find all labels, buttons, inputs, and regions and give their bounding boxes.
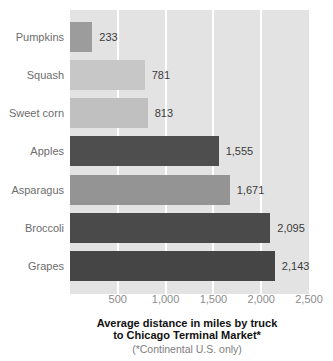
- category-label: Grapes: [0, 260, 70, 272]
- value-label: 1,671: [237, 184, 265, 196]
- category-label: Asparagus: [0, 184, 70, 196]
- bar-row: Squash 781: [0, 60, 309, 90]
- value-label: 2,143: [282, 260, 310, 272]
- category-label: Apples: [0, 145, 70, 157]
- bar: [70, 22, 92, 52]
- bar-chart: Pumpkins 233 Squash 781 Sweet corn 813 A…: [0, 0, 333, 361]
- bar-row: Pumpkins 233: [0, 22, 309, 52]
- x-tick-2000: 2,000: [247, 293, 275, 305]
- bar-row: Sweet corn 813: [0, 98, 309, 128]
- bar: [70, 213, 270, 243]
- chart-title-line2: to Chicago Terminal Market*: [55, 329, 319, 341]
- category-label: Squash: [0, 69, 70, 81]
- category-label: Sweet corn: [0, 107, 70, 119]
- bar-track: 2,143: [70, 251, 309, 281]
- x-tick-2500: 2,500: [295, 293, 323, 305]
- bar: [70, 98, 148, 128]
- x-axis: 500 1,000 1,500 2,000 2,500: [70, 293, 309, 307]
- bar-track: 2,095: [70, 213, 309, 243]
- bar-row: Broccoli 2,095: [0, 213, 309, 243]
- value-label: 233: [99, 31, 117, 43]
- bar-row: Grapes 2,143: [0, 251, 309, 281]
- chart-subtitle: (*Continental U.S. only): [55, 343, 319, 355]
- bar: [70, 60, 145, 90]
- bar-track: 1,555: [70, 136, 309, 166]
- category-label: Pumpkins: [0, 31, 70, 43]
- bar-track: 813: [70, 98, 309, 128]
- category-label: Broccoli: [0, 222, 70, 234]
- bar: [70, 175, 230, 205]
- bar: [70, 136, 219, 166]
- chart-title-line1: Average distance in miles by truck: [55, 317, 319, 329]
- bar: [70, 251, 275, 281]
- value-label: 781: [152, 69, 170, 81]
- bar-track: 1,671: [70, 175, 309, 205]
- bar-row: Apples 1,555: [0, 136, 309, 166]
- bar-rows: Pumpkins 233 Squash 781 Sweet corn 813 A…: [0, 10, 309, 294]
- chart-caption: Average distance in miles by truck to Ch…: [55, 317, 319, 355]
- bar-track: 781: [70, 60, 309, 90]
- x-tick-500: 500: [109, 293, 127, 305]
- x-tick-1500: 1,500: [200, 293, 228, 305]
- x-tick-1000: 1,000: [152, 293, 180, 305]
- value-label: 1,555: [226, 145, 254, 157]
- bar-row: Asparagus 1,671: [0, 175, 309, 205]
- bar-track: 233: [70, 22, 309, 52]
- value-label: 813: [155, 107, 173, 119]
- value-label: 2,095: [277, 222, 305, 234]
